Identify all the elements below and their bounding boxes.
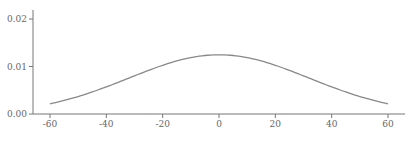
y-tick-label: 0.02 [7, 14, 27, 24]
chart: 0.000.010.02 -60-40-200204060 [0, 0, 413, 147]
y-tick-label: 0.01 [7, 62, 27, 72]
x-tick-label: 60 [382, 119, 394, 129]
x-tick-label: -40 [99, 119, 114, 129]
x-ticks: -60-40-200204060 [43, 114, 394, 129]
density-curve [50, 55, 388, 104]
y-tick-label: 0.00 [7, 109, 27, 119]
x-tick-label: -60 [43, 119, 58, 129]
x-tick-label: 40 [326, 119, 338, 129]
y-ticks: 0.000.010.02 [7, 14, 33, 119]
x-tick-label: -20 [155, 119, 170, 129]
x-tick-label: 20 [270, 119, 282, 129]
x-tick-label: 0 [216, 119, 222, 129]
